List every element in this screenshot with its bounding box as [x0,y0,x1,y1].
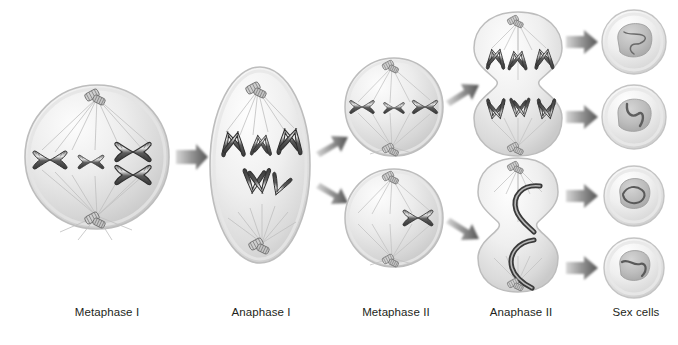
cell-anaphase-i [210,67,310,263]
stage-label-anaphase-i: Anaphase I [231,306,290,318]
diagram-canvas [0,0,678,345]
nucleus-sex-cell-3 [620,179,650,209]
arrow-anaphase-i-to-metaphase-ii-bottom [316,183,348,204]
arrow-anaphase-ii-top-to-sex-cell-2 [566,105,598,129]
stage-label-anaphase-ii: Anaphase II [490,306,552,318]
arrow-anaphase-i-to-metaphase-ii-top [316,136,348,157]
arrow-metaphase-ii-top-to-anaphase-ii-top [446,84,479,106]
cell-sex-cell-1 [602,10,666,74]
stage-label-metaphase-ii: Metaphase II [362,306,430,318]
cell-metaphase-i [25,85,169,240]
nucleus-sex-cell-4 [620,251,650,281]
cell-anaphase-ii-top [474,12,562,156]
cell-metaphase-ii-top [345,58,443,157]
meiosis-diagram-figure: Metaphase I Anaphase I Metaphase II Anap… [0,0,678,345]
cell-sex-cell-2 [602,85,666,149]
cell-sex-cell-4 [604,238,664,298]
stage-label-metaphase-i: Metaphase I [75,306,139,318]
arrow-anaphase-ii-bottom-to-sex-cell-3 [566,184,598,208]
cell-sex-cell-3 [604,166,664,226]
arrow-metaphase-ii-bottom-to-anaphase-ii-bottom [446,218,479,240]
cell-metaphase-ii-bottom [345,169,443,268]
nucleus-sex-cell-1 [618,24,652,57]
cell-anaphase-ii-bottom [478,158,558,292]
arrow-metaphase-i-to-anaphase-i [176,144,208,170]
nucleus-sex-cell-2 [618,99,651,131]
stage-label-sex-cells: Sex cells [613,306,660,318]
arrow-anaphase-ii-bottom-to-sex-cell-4 [566,256,598,280]
arrow-anaphase-ii-top-to-sex-cell-1 [566,30,598,54]
